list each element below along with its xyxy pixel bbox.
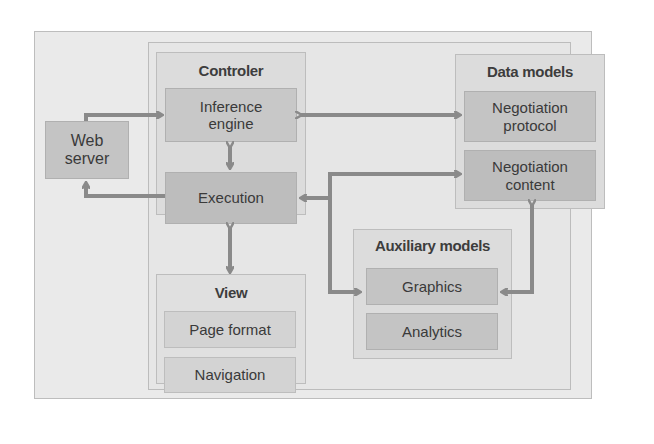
web-server-label-line2: server <box>65 150 109 168</box>
inference-engine-line2: engine <box>208 115 253 132</box>
view-title: View <box>157 284 305 301</box>
negotiation-content-line2: content <box>505 176 554 193</box>
execution-label: Execution <box>198 189 264 206</box>
execution-box: Execution <box>165 172 297 224</box>
negotiation-protocol-box: Negotiation protocol <box>464 91 596 142</box>
page-format-box: Page format <box>164 311 296 348</box>
graphics-label: Graphics <box>402 278 462 295</box>
controler-title: Controler <box>157 62 305 79</box>
negotiation-content-box: Negotiation content <box>464 150 596 201</box>
negotiation-protocol-line2: protocol <box>503 117 556 134</box>
negotiation-content-line1: Negotiation <box>492 158 568 175</box>
analytics-label: Analytics <box>402 323 462 340</box>
auxiliary-models-title: Auxiliary models <box>354 237 511 254</box>
web-server-label-line1: Web <box>71 132 104 150</box>
page-format-label: Page format <box>189 321 271 338</box>
analytics-box: Analytics <box>366 313 498 350</box>
negotiation-protocol-line1: Negotiation <box>492 99 568 116</box>
graphics-box: Graphics <box>366 268 498 305</box>
web-server-box: Web server <box>45 121 129 179</box>
navigation-item: Navigation <box>164 357 296 393</box>
navigation-label: Navigation <box>195 366 266 383</box>
inference-engine-box: Inference engine <box>165 88 297 142</box>
diagram-render: Web server Controler Inference engine Ex… <box>0 0 654 444</box>
inference-engine-line1: Inference <box>200 98 263 115</box>
data-models-title: Data models <box>456 63 604 80</box>
